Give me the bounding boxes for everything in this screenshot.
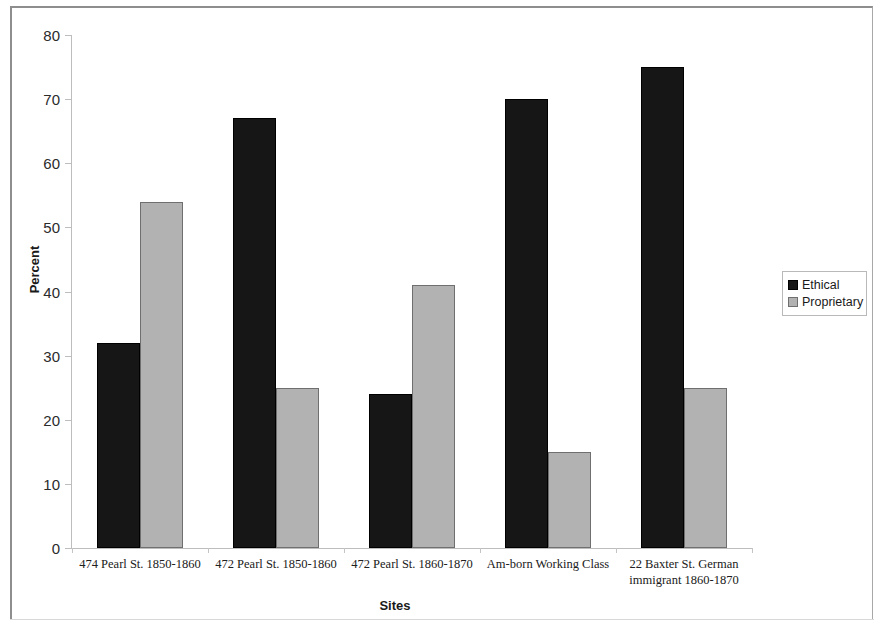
y-axis-tick-label: 20: [22, 412, 60, 429]
y-axis-tick-label: 80: [22, 27, 60, 44]
bar-ethical-2: [233, 118, 276, 548]
legend-label-ethical: Ethical: [802, 278, 840, 292]
bar-proprietary-1: [140, 202, 183, 548]
chart-legend: Ethical Proprietary: [782, 271, 867, 316]
x-axis-tick: [344, 548, 345, 553]
y-axis-tick-label: 70: [22, 91, 60, 108]
x-axis-line: [71, 548, 753, 549]
bar-proprietary-2: [276, 388, 319, 548]
y-axis-tick: [65, 356, 71, 357]
bar-ethical-1: [97, 343, 140, 548]
legend-item-ethical: Ethical: [788, 276, 861, 293]
bar-proprietary-4: [548, 452, 591, 548]
x-axis-tick: [208, 548, 209, 553]
x-axis-category-label: 474 Pearl St. 1850-1860: [64, 557, 216, 573]
x-axis-tick: [480, 548, 481, 553]
bar-ethical-3: [369, 394, 412, 548]
y-axis-tick: [65, 420, 71, 421]
y-axis-tick-label: 60: [22, 155, 60, 172]
y-axis-title: Percent: [27, 230, 42, 310]
bar-proprietary-5: [684, 388, 727, 548]
y-axis-line: [71, 35, 72, 549]
x-axis-tick: [616, 548, 617, 553]
bar-ethical-5: [641, 67, 684, 548]
y-axis-tick-label: 30: [22, 348, 60, 365]
x-axis-title: Sites: [0, 598, 790, 613]
legend-item-proprietary: Proprietary: [788, 293, 861, 310]
x-axis-category-label: 472 Pearl St. 1860-1870: [336, 557, 488, 573]
y-axis-tick: [65, 548, 71, 549]
x-axis-tick: [72, 548, 73, 553]
x-axis-category-label: 22 Baxter St. German immigrant 1860-1870: [608, 557, 760, 588]
x-axis-tick: [752, 548, 753, 553]
bar-chart: 80706050403020100 Percent Sites 474 Pear…: [0, 0, 884, 627]
y-axis-tick: [65, 227, 71, 228]
legend-swatch-ethical: [788, 280, 798, 290]
bar-ethical-4: [505, 99, 548, 548]
y-axis-tick: [65, 35, 71, 36]
y-axis-tick-label: 10: [22, 476, 60, 493]
x-axis-category-label: 472 Pearl St. 1850-1860: [200, 557, 352, 573]
y-axis-tick: [65, 99, 71, 100]
bar-proprietary-3: [412, 285, 455, 548]
y-axis-tick: [65, 292, 71, 293]
y-axis-tick-label: 0: [22, 540, 60, 557]
y-axis-tick: [65, 484, 71, 485]
x-axis-category-label: Am-born Working Class: [472, 557, 624, 573]
legend-swatch-proprietary: [788, 297, 798, 307]
legend-label-proprietary: Proprietary: [802, 295, 863, 309]
y-axis-tick: [65, 163, 71, 164]
